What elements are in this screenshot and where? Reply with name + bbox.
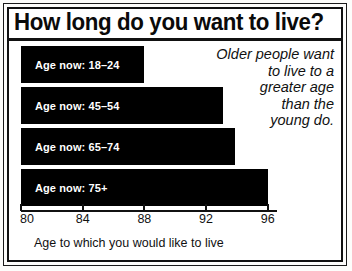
annotation-line-3: greater age — [184, 79, 334, 96]
x-tick-84 — [82, 204, 84, 211]
x-tick-92 — [205, 204, 207, 211]
x-tick-88 — [143, 204, 145, 211]
x-tick-label-92: 92 — [199, 212, 213, 226]
annotation-line-4: than the — [184, 96, 334, 113]
x-tick-80 — [20, 204, 22, 211]
x-tick-96 — [267, 204, 269, 211]
x-tick-label-84: 84 — [76, 212, 90, 226]
bar-3: Age now: 65–74 — [21, 128, 235, 165]
bar-1: Age now: 18–24 — [21, 46, 144, 83]
annotation-line-5: young do. — [184, 112, 334, 129]
x-tick-label-88: 88 — [137, 212, 151, 226]
bar-label-4: Age now: 75+ — [35, 182, 107, 194]
chart-figure: How long do you want to live? Age now: 1… — [0, 0, 352, 271]
bar-4: Age now: 75+ — [21, 169, 268, 206]
annotation-line-1: Older people want — [184, 46, 334, 63]
bar-label-2: Age now: 45–54 — [35, 100, 120, 112]
x-tick-label-80: 80 — [20, 212, 34, 226]
chart-annotation: Older people want to live to a greater a… — [184, 46, 334, 129]
x-axis-label: Age to which you would like to live — [34, 236, 224, 250]
bar-label-3: Age now: 65–74 — [35, 141, 120, 153]
plot-area: Age now: 18–24Age now: 45–54Age now: 65–… — [0, 0, 352, 271]
annotation-line-2: to live to a — [184, 63, 334, 80]
x-tick-label-96: 96 — [261, 212, 275, 226]
bar-label-1: Age now: 18–24 — [35, 59, 120, 71]
